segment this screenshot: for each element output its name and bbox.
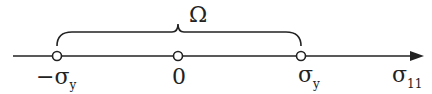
stress-interval-diagram: Ω −σy 0 σy σ11 bbox=[0, 0, 432, 94]
interval-brace bbox=[57, 24, 301, 46]
point-neg-sigma-y bbox=[53, 52, 62, 61]
sigma-y-label: σy bbox=[298, 62, 320, 91]
axis-arrow-icon bbox=[410, 51, 424, 61]
neg-sigma-y-label: −σy bbox=[36, 64, 76, 92]
sigma-11-axis-label: σ11 bbox=[392, 62, 422, 91]
point-zero bbox=[174, 52, 183, 61]
zero-label: 0 bbox=[172, 64, 186, 89]
point-sigma-y bbox=[297, 52, 306, 61]
diagram-canvas: Ω −σy 0 σy σ11 bbox=[0, 0, 432, 94]
omega-label: Ω bbox=[189, 2, 207, 27]
